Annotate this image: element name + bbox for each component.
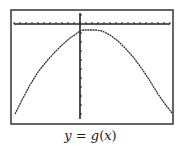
caption-rparen: )	[112, 128, 117, 143]
graph-caption: y = g(x)	[0, 128, 181, 143]
caption-eq: =	[72, 128, 91, 143]
caption-arg: x	[104, 128, 111, 143]
caption-fn: g	[91, 128, 99, 143]
caption-lhs: y	[64, 128, 71, 143]
graph-frame	[11, 10, 173, 124]
